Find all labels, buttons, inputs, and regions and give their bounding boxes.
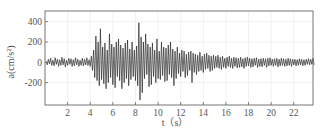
x-tick-label: 20 xyxy=(266,108,276,118)
x-tick-label: 6 xyxy=(110,108,115,118)
series-acceleration xyxy=(46,23,314,100)
x-axis-ticks: 246810121416182022 xyxy=(65,102,299,118)
acceleration-chart: 246810121416182022 4002000-200 t（s） a(cm… xyxy=(0,0,321,138)
y-axis-label: a(cm/s²) xyxy=(5,46,17,79)
y-tick-label: -200 xyxy=(25,78,43,88)
acceleration-trace xyxy=(46,23,314,100)
y-tick-label: 200 xyxy=(28,37,43,47)
x-tick-label: 22 xyxy=(289,108,299,118)
y-tick-label: 400 xyxy=(28,17,43,27)
x-tick-label: 2 xyxy=(65,108,70,118)
y-tick-label: 0 xyxy=(37,58,42,68)
x-tick-label: 18 xyxy=(244,108,254,118)
x-tick-label: 14 xyxy=(199,108,209,118)
x-tick-label: 8 xyxy=(133,108,138,118)
x-axis-label: t（s） xyxy=(162,117,189,128)
x-tick-label: 4 xyxy=(88,108,93,118)
y-axis-ticks: 4002000-200 xyxy=(25,17,48,88)
x-tick-label: 16 xyxy=(221,108,231,118)
